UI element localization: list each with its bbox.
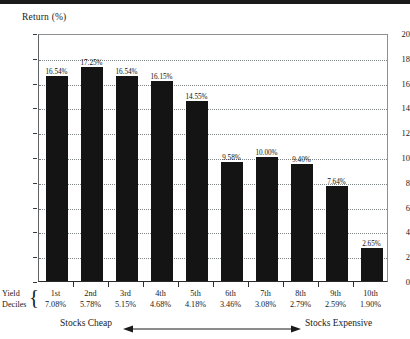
- bar: [151, 81, 173, 281]
- yield-deciles-label-line2: Deciles: [2, 300, 27, 311]
- y-axis-tick-label: 0: [380, 277, 410, 287]
- decile-rank-label: 5th: [176, 289, 216, 300]
- decile-column: 1st7.08%: [36, 289, 76, 310]
- chart-figure: Return (%) 16.54%17.25%16.54%16.15%14.55…: [0, 0, 410, 339]
- decile-yield-label: 2.59%: [316, 300, 356, 311]
- decile-yield-label: 3.46%: [211, 300, 251, 311]
- y-axis-tick-label: 18: [380, 54, 410, 64]
- bar: [46, 76, 68, 281]
- decile-yield-label: 1.90%: [351, 300, 391, 311]
- decile-rank-label: 4th: [141, 289, 181, 300]
- decile-column: 2nd5.78%: [71, 289, 111, 310]
- bar: [291, 164, 313, 281]
- bar: [116, 76, 138, 281]
- double-arrow-icon: [123, 325, 301, 333]
- x-axis-tick-mark: [283, 282, 284, 287]
- bar: [81, 67, 103, 281]
- bar-value-label: 10.00%: [255, 149, 277, 157]
- x-axis-tick-mark: [73, 282, 74, 287]
- x-axis-tick-mark: [248, 282, 249, 287]
- bar-value-label: 2.65%: [362, 240, 381, 248]
- decile-yield-label: 2.79%: [281, 300, 321, 311]
- decile-rank-label: 1st: [36, 289, 76, 300]
- y-axis-tick-label: 4: [380, 227, 410, 237]
- y-axis-tick-mark: [33, 133, 37, 134]
- x-axis-tick-mark: [108, 282, 109, 287]
- y-axis-tick-mark: [33, 282, 37, 283]
- decile-column: 8th2.79%: [281, 289, 321, 310]
- decile-column: 3rd5.15%: [106, 289, 146, 310]
- bar-value-label: 7.64%: [327, 178, 346, 186]
- bar-value-label: 16.15%: [150, 73, 172, 81]
- decile-yield-label: 5.15%: [106, 300, 146, 311]
- bar-value-label: 14.55%: [185, 93, 207, 101]
- y-axis-tick-mark: [33, 232, 37, 233]
- x-axis-tick-mark: [318, 282, 319, 287]
- decile-rank-label: 9th: [316, 289, 356, 300]
- top-rule-divider: [0, 0, 410, 4]
- bar-value-label: 9.58%: [222, 154, 241, 162]
- y-axis-tick-mark: [33, 84, 37, 85]
- y-axis-tick-mark: [33, 158, 37, 159]
- bar: [326, 186, 348, 281]
- decile-column: 4th4.68%: [141, 289, 181, 310]
- y-axis-tick-label: 14: [380, 103, 410, 113]
- decile-rank-label: 7th: [246, 289, 286, 300]
- y-axis-tick-mark: [33, 183, 37, 184]
- direction-annotation: Stocks Cheap Stocks Expensive: [0, 318, 410, 336]
- y-axis-tick-mark: [33, 34, 37, 35]
- decile-yield-label: 5.78%: [71, 300, 111, 311]
- plot-area: 16.54%17.25%16.54%16.15%14.55%9.58%10.00…: [38, 34, 388, 282]
- decile-yield-label: 4.68%: [141, 300, 181, 311]
- y-axis-tick-label: 6: [380, 203, 410, 213]
- stocks-cheap-label: Stocks Cheap: [60, 318, 112, 328]
- x-axis-tick-mark: [213, 282, 214, 287]
- decile-rank-label: 10th: [351, 289, 391, 300]
- y-axis-tick-label: 12: [380, 128, 410, 138]
- decile-rank-label: 6th: [211, 289, 251, 300]
- decile-yield-label: 4.18%: [176, 300, 216, 311]
- decile-yield-label: 3.08%: [246, 300, 286, 311]
- decile-column: 7th3.08%: [246, 289, 286, 310]
- y-axis-tick-mark: [33, 257, 37, 258]
- bar-value-label: 17.25%: [80, 59, 102, 67]
- y-axis-tick-label: 8: [380, 178, 410, 188]
- y-axis-tick-label: 20: [380, 29, 410, 39]
- bar: [221, 162, 243, 281]
- x-axis-tick-mark: [143, 282, 144, 287]
- decile-rank-label: 2nd: [71, 289, 111, 300]
- decile-column: 10th1.90%: [351, 289, 391, 310]
- y-axis-tick-mark: [33, 208, 37, 209]
- decile-column: 6th3.46%: [211, 289, 251, 310]
- decile-column: 9th2.59%: [316, 289, 356, 310]
- x-axis-tick-mark: [353, 282, 354, 287]
- y-axis-tick-label: 2: [380, 252, 410, 262]
- y-axis-title: Return (%): [22, 12, 66, 22]
- decile-column: 5th4.18%: [176, 289, 216, 310]
- y-axis-tick-label: 10: [380, 153, 410, 163]
- bar-value-label: 16.54%: [115, 68, 137, 76]
- x-axis-tick-mark: [178, 282, 179, 287]
- y-axis-tick-mark: [33, 108, 37, 109]
- stocks-expensive-label: Stocks Expensive: [305, 318, 372, 328]
- bar-value-label: 16.54%: [45, 68, 67, 76]
- y-axis-tick-mark: [33, 59, 37, 60]
- decile-yield-label: 7.08%: [36, 300, 76, 311]
- decile-rank-label: 8th: [281, 289, 321, 300]
- decile-rank-label: 3rd: [106, 289, 146, 300]
- y-axis-tick-label: 16: [380, 79, 410, 89]
- bar: [256, 157, 278, 281]
- bar: [186, 101, 208, 281]
- yield-deciles-label-line1: Yield: [2, 289, 20, 300]
- bar-value-label: 9.40%: [292, 156, 311, 164]
